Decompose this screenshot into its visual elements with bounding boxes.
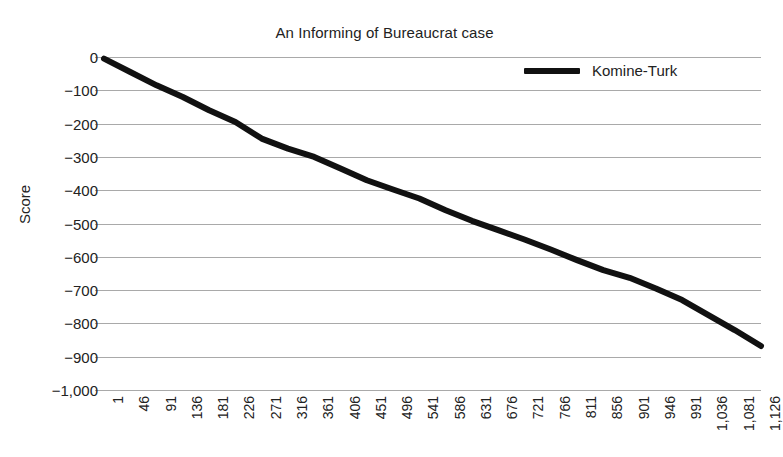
y-tick-label: −900	[0, 348, 98, 365]
series-path-komine-turk	[104, 59, 761, 346]
x-tick-label: 811	[583, 396, 599, 418]
y-tick-label: −100	[0, 82, 98, 99]
x-tick-label: 361	[320, 396, 336, 419]
x-tick-label: 991	[688, 396, 704, 419]
x-tick-label: 136	[189, 396, 205, 419]
x-tick-label: 406	[347, 396, 363, 419]
x-tick-label: 1,126	[767, 396, 783, 431]
x-tick-label: 541	[425, 396, 441, 419]
y-tick-label: −500	[0, 215, 98, 232]
x-tick-label: 1	[110, 396, 126, 404]
plot-area	[104, 57, 761, 390]
y-tick-label: −200	[0, 115, 98, 132]
legend-label-komine-turk: Komine-Turk	[592, 62, 677, 79]
y-tick-label: −600	[0, 248, 98, 265]
gridline	[104, 390, 761, 391]
x-tick-label: 1,036	[714, 396, 730, 431]
x-tick-label: 901	[636, 396, 652, 419]
x-tick-label: 856	[609, 396, 625, 419]
x-tick-label: 46	[136, 396, 152, 412]
y-tick-label: −700	[0, 282, 98, 299]
y-axis-title: Score	[16, 155, 33, 255]
x-tick-label: 226	[241, 396, 257, 419]
y-tick-label: −400	[0, 182, 98, 199]
x-tick-label: 91	[163, 396, 179, 412]
x-tick-label: 316	[294, 396, 310, 419]
x-tick-label: 271	[268, 396, 284, 419]
x-tick-label: 451	[373, 396, 389, 419]
y-tick-label: −300	[0, 148, 98, 165]
y-tick-label: 0	[0, 49, 98, 66]
x-tick-label: 1,081	[741, 396, 757, 431]
y-tick-label: −800	[0, 315, 98, 332]
x-tick-label: 721	[530, 396, 546, 419]
x-tick-label: 766	[557, 396, 573, 419]
x-tick-label: 181	[215, 396, 231, 419]
x-tick-label: 586	[452, 396, 468, 419]
legend-swatch-komine-turk	[524, 68, 580, 74]
x-tick-label: 676	[504, 396, 520, 419]
x-tick-label: 631	[478, 396, 494, 419]
legend: Komine-Turk	[524, 62, 677, 79]
series-line-komine-turk	[104, 57, 761, 390]
clipped-text-row	[0, 0, 769, 14]
chart-title: An Informing of Bureaucrat case	[0, 24, 769, 41]
y-tick-label: −1,000	[0, 382, 98, 399]
x-tick-label: 946	[662, 396, 678, 419]
x-tick-label: 496	[399, 396, 415, 419]
